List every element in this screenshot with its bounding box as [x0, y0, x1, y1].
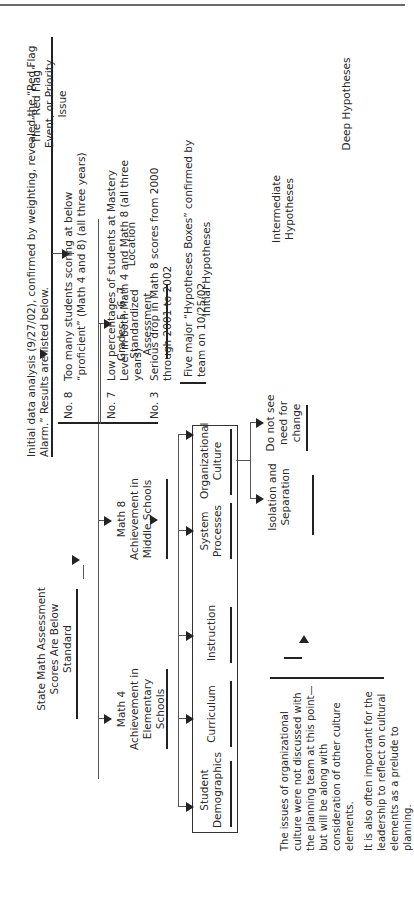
footnote-bar — [270, 677, 384, 679]
footnote-p1: The issues of organizational culture wer… — [278, 683, 356, 851]
footnote-arrow-stem — [284, 657, 302, 659]
hypothesis-demographics-underline — [230, 761, 232, 827]
intermediate-isolation: Isolation and Separation — [266, 455, 292, 539]
hyp-bus — [178, 435, 179, 807]
hyp2-arrow-icon — [186, 714, 194, 724]
hypothesis-demographics: Student Demographics — [198, 747, 224, 833]
root-node-text: State Math Assessment Scores Are Below S… — [35, 579, 74, 719]
hyp1-arrow-icon — [186, 802, 194, 812]
hypothesis-org-culture: Organizational Culture — [198, 423, 224, 499]
int2-arrow-icon — [256, 418, 264, 428]
hypothesis-instruction-underline — [230, 607, 232, 663]
ranked-result-3: No. 3Serious drop in Math 8 scores from … — [148, 19, 174, 419]
hyp4-arrow-icon — [186, 526, 194, 536]
level-label-intermediate: Intermediate Hypotheses — [270, 154, 296, 264]
rank-label: No. 7 — [105, 381, 118, 419]
math8-down-arrow-icon — [150, 515, 158, 525]
location-math8-underline — [166, 479, 168, 559]
loc1-arrow-icon — [104, 714, 112, 724]
ranked-result-2: No. 7Low percentages of students at Mast… — [105, 19, 144, 419]
hypothesis-system-processes: System Processes — [198, 493, 224, 569]
rank-text: Serious drop in Math 8 scores from 2000 … — [148, 141, 174, 381]
hypothesis-instruction: Instruction — [205, 595, 218, 671]
root-underline — [76, 589, 78, 719]
ranked-result-1: No. 8Too many students scoring at below … — [62, 19, 88, 419]
footnote-wrap: The issues of organizational culture wer… — [278, 683, 414, 851]
int1-arrow-icon — [256, 494, 264, 504]
culture-stem — [236, 460, 250, 461]
root-arrow-icon — [72, 555, 80, 565]
intermediate-bus — [250, 423, 251, 499]
location-math4: Math 4 Achievement in Elementary Schools — [115, 659, 167, 759]
intermediate-no-change: Do not see need for change — [264, 391, 303, 455]
results-connector — [100, 324, 101, 424]
hypotheses-note-bar — [180, 382, 206, 384]
hyp3-arrow-icon — [186, 631, 194, 641]
root-connector — [83, 565, 84, 579]
hypothesis-system-processes-underline — [230, 503, 232, 559]
hypothesis-curriculum-underline — [230, 681, 232, 747]
rank-text: Low percentages of students at Mastery L… — [105, 141, 144, 381]
loc2-arrow-icon — [104, 516, 112, 526]
location-math8: Math 8 Achievement in Middle Schools — [115, 469, 154, 569]
hypothesis-curriculum: Curriculum — [205, 679, 218, 749]
hypotheses-note: Five major “Hypotheses Boxes” confirmed … — [182, 137, 208, 377]
footnote-arrow-icon — [299, 635, 309, 643]
analysis-note: Initial data analysis (9/27/02), confirm… — [25, 17, 51, 457]
hypothesis-org-culture-underline — [230, 429, 232, 495]
level-label-deep: Deep Hypotheses — [340, 49, 353, 159]
rank-label: No. 3 — [148, 381, 161, 419]
location-bus — [98, 219, 99, 779]
grades-arrow-icon — [40, 349, 48, 359]
rank-text: Too many students scoring at below “prof… — [62, 141, 88, 381]
hyp5-arrow-icon — [186, 430, 194, 440]
footnote-p2: It is also often important for the leade… — [362, 683, 414, 851]
intermediate-no-change-underline — [306, 405, 308, 451]
rank-label: No. 8 — [62, 381, 75, 419]
results-bracket — [58, 422, 158, 424]
analysis-note-underline — [51, 37, 53, 457]
intermediate-isolation-underline — [312, 475, 314, 535]
location-math4-underline — [166, 669, 168, 749]
